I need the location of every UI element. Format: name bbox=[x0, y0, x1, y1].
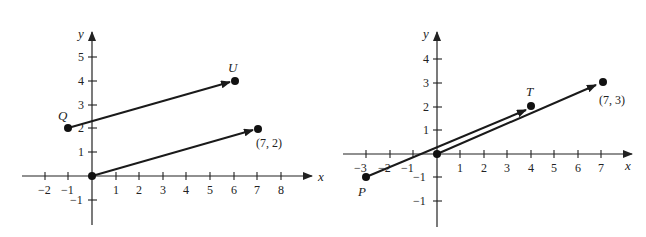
svg-text:−1: −1 bbox=[401, 161, 414, 175]
svg-text:−3: −3 bbox=[354, 161, 367, 175]
label-U: U bbox=[228, 60, 239, 75]
svg-text:2: 2 bbox=[136, 183, 142, 197]
svg-text:4: 4 bbox=[423, 52, 429, 66]
left-graph: x y −2 −1 1 2 3 4 5 6 7 8 bbox=[22, 26, 324, 225]
point-P bbox=[362, 173, 370, 181]
right-y-axis-label: y bbox=[421, 26, 429, 41]
svg-text:1: 1 bbox=[423, 123, 429, 137]
label-T: T bbox=[526, 84, 534, 99]
svg-text:2: 2 bbox=[481, 161, 487, 175]
svg-text:4: 4 bbox=[528, 161, 534, 175]
svg-text:7: 7 bbox=[254, 183, 260, 197]
svg-text:1: 1 bbox=[78, 145, 84, 159]
svg-text:8: 8 bbox=[278, 183, 284, 197]
vector-origin-7-3 bbox=[437, 85, 596, 154]
svg-text:3: 3 bbox=[160, 183, 166, 197]
left-y-axis-label: y bbox=[76, 26, 84, 41]
svg-text:3: 3 bbox=[78, 98, 84, 112]
left-x-axis-label: x bbox=[317, 169, 324, 184]
svg-text:5: 5 bbox=[207, 183, 213, 197]
point-origin-right bbox=[433, 150, 441, 158]
point-Q bbox=[64, 124, 72, 132]
svg-text:3: 3 bbox=[504, 161, 510, 175]
label-P: P bbox=[357, 184, 366, 199]
vector-figure: x y −2 −1 1 2 3 4 5 6 7 8 bbox=[0, 0, 646, 237]
right-graph: x y −3 −2 −1 1 2 3 4 5 6 7 bbox=[343, 26, 632, 227]
svg-text:1: 1 bbox=[113, 183, 119, 197]
point-origin-left bbox=[88, 172, 96, 180]
svg-text:5: 5 bbox=[551, 161, 557, 175]
svg-text:4: 4 bbox=[78, 74, 84, 88]
label-7-3: (7, 3) bbox=[599, 93, 625, 107]
vector-PT bbox=[366, 110, 526, 177]
vector-origin-7-2 bbox=[92, 130, 253, 176]
label-Q: Q bbox=[58, 108, 68, 123]
svg-text:5: 5 bbox=[78, 50, 84, 64]
svg-text:−1: −1 bbox=[70, 193, 83, 207]
right-y-ticks: 1 2 3 4 −1 −1 bbox=[413, 52, 442, 208]
svg-text:7: 7 bbox=[598, 161, 604, 175]
label-7-2: (7, 2) bbox=[256, 136, 282, 150]
left-y-ticks: 1 2 3 4 5 −1 bbox=[70, 50, 97, 207]
point-U bbox=[231, 77, 239, 85]
svg-text:1: 1 bbox=[457, 161, 463, 175]
svg-text:6: 6 bbox=[575, 161, 581, 175]
point-T bbox=[527, 102, 535, 110]
right-x-axis-label: x bbox=[624, 158, 631, 173]
svg-text:−2: −2 bbox=[38, 183, 51, 197]
svg-text:2: 2 bbox=[423, 100, 429, 114]
svg-text:−1: −1 bbox=[413, 170, 426, 184]
svg-text:−1: −1 bbox=[413, 194, 426, 208]
svg-text:3: 3 bbox=[423, 76, 429, 90]
svg-text:4: 4 bbox=[183, 183, 189, 197]
svg-text:6: 6 bbox=[231, 183, 237, 197]
point-7-2 bbox=[254, 125, 262, 133]
point-7-3 bbox=[599, 78, 607, 86]
